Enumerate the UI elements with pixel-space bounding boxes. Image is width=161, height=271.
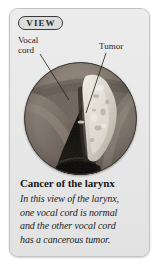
- caption: Cancer of the larynx In this view of the…: [20, 177, 144, 246]
- caption-line: and the other vocal cord: [20, 219, 144, 233]
- caption-body: In this view of the larynx, one vocal co…: [20, 192, 144, 246]
- view-badge: VIEW: [18, 16, 63, 30]
- page: VIEW: [0, 0, 161, 271]
- caption-line: In this view of the larynx,: [20, 192, 144, 206]
- view-card: VIEW: [9, 8, 150, 257]
- caption-title: Cancer of the larynx: [20, 177, 144, 190]
- larynx-photo: [24, 62, 137, 175]
- vocal-cord-label: Vocal cord: [18, 35, 38, 55]
- tumor-label: Tumor: [99, 41, 123, 51]
- caption-line: has a cancerous tumor.: [20, 233, 144, 247]
- caption-line: one vocal cord is normal: [20, 206, 144, 220]
- view-badge-label: VIEW: [25, 19, 55, 28]
